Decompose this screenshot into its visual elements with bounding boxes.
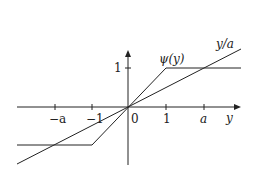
- tick-label-y-1: 1: [114, 61, 122, 75]
- linear-label: y/a: [215, 37, 234, 51]
- tick-label-neg-a: −a: [49, 112, 66, 126]
- y-axis-arrow-icon: [125, 50, 131, 57]
- tick-label-1: 1: [163, 112, 171, 126]
- x-axis-label: y: [225, 111, 233, 125]
- function-plot: −a −1 0 1 a y 1 ψ(y) y/a: [0, 0, 259, 176]
- origin-label: 0: [131, 112, 139, 126]
- psi-label: ψ(y): [159, 52, 185, 66]
- tick-label-a: a: [200, 112, 207, 126]
- tick-label-neg-1: −1: [86, 112, 104, 126]
- x-axis-arrow-icon: [234, 104, 241, 110]
